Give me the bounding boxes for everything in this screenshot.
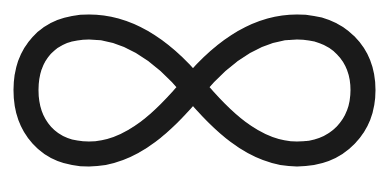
infinity-graphic — [0, 0, 389, 189]
infinity-symbol-svg — [0, 0, 389, 189]
infinity-symbol — [26, 27, 363, 154]
